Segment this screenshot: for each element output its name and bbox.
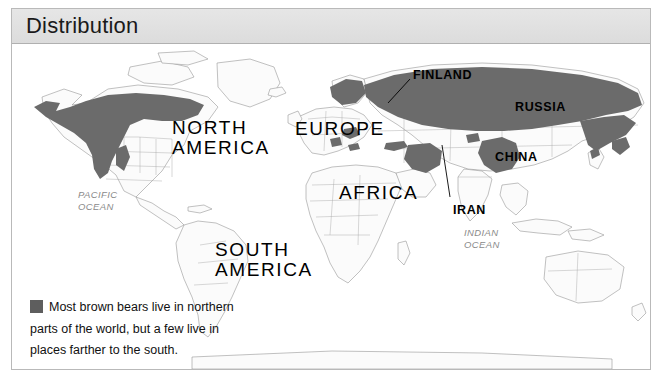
page-title: Distribution	[26, 13, 138, 39]
map-label-iran: IRAN	[453, 204, 486, 217]
map-label-africa: AFRICA	[339, 183, 418, 203]
panel-header: Distribution	[12, 9, 650, 44]
map-label-north-america: NORTH AMERICA	[172, 118, 270, 158]
map-label-china: CHINA	[495, 151, 538, 164]
map-label-finland: FINLAND	[413, 69, 472, 82]
map-label-russia: RUSSIA	[515, 101, 566, 114]
map-label-europe: EUROPE	[295, 119, 385, 139]
legend-color-swatch	[30, 300, 43, 313]
distribution-map-panel: Distribution .ld{fill:#fbfbfb;stroke:#8d…	[11, 8, 651, 370]
map-legend: Most brown bears live in northern parts …	[30, 297, 245, 362]
world-map: .ld{fill:#fbfbfb;stroke:#8d8d8d;stroke-w…	[12, 45, 650, 369]
legend-caption-text: Most brown bears live in northern parts …	[30, 300, 234, 357]
map-label-pacific-ocean: PACIFIC OCEAN	[78, 189, 118, 213]
map-label-indian-ocean: INDIAN OCEAN	[464, 227, 500, 251]
map-label-south-america: SOUTH AMERICA	[215, 240, 313, 280]
